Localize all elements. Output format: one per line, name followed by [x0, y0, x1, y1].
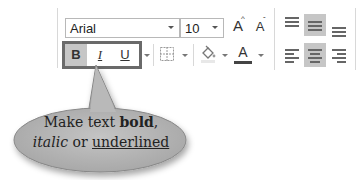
font-size-value: 10 — [185, 21, 199, 36]
ribbon-separator — [274, 8, 275, 70]
top-align-button[interactable] — [282, 14, 302, 34]
callout-prefix: Make text — [44, 114, 120, 130]
ribbon-separator — [57, 8, 58, 68]
bottom-align-icon — [332, 27, 346, 39]
decrease-font-size-button[interactable]: Aˇ — [252, 19, 268, 37]
callout-bold-word: bold — [120, 114, 154, 130]
ribbon-separator — [355, 8, 356, 70]
callout-line-2: italic or underlined — [26, 132, 176, 152]
callout-comma: , — [154, 114, 158, 130]
align-left-icon — [285, 49, 299, 65]
font-name-value: Arial — [70, 21, 96, 36]
align-left-button[interactable] — [282, 44, 302, 66]
middle-align-button[interactable] — [304, 14, 326, 36]
underline-dropdown-arrow[interactable] — [144, 54, 150, 57]
align-right-icon — [332, 49, 346, 65]
borders-dropdown-arrow[interactable] — [182, 54, 188, 57]
fill-color-dropdown-arrow[interactable] — [222, 54, 228, 57]
align-center-button[interactable] — [304, 43, 326, 67]
callout-line-1: Make text bold, — [26, 112, 176, 132]
chevron-down-icon — [168, 26, 174, 29]
font-color-button[interactable]: A — [234, 43, 252, 65]
font-name-dropdown[interactable]: Arial — [65, 18, 180, 38]
callout-underlined-word: underlined — [92, 134, 169, 150]
callout-or: or — [68, 134, 92, 150]
chevron-down-icon — [212, 26, 218, 29]
font-size-dropdown[interactable]: 10 — [180, 18, 224, 38]
callout-italic-word: italic — [33, 134, 68, 150]
align-right-button[interactable] — [329, 44, 349, 66]
callout-text: Make text bold, italic or underlined — [26, 112, 176, 152]
increase-font-size-button[interactable]: A^ — [230, 17, 246, 37]
bottom-align-button[interactable] — [329, 18, 349, 38]
borders-button[interactable] — [160, 47, 174, 61]
font-color-icon: A — [238, 44, 247, 60]
borders-icon — [160, 47, 174, 61]
top-align-icon — [285, 17, 299, 29]
align-center-icon — [308, 49, 322, 65]
middle-align-icon — [308, 21, 322, 33]
font-color-dropdown-arrow[interactable] — [258, 54, 264, 57]
